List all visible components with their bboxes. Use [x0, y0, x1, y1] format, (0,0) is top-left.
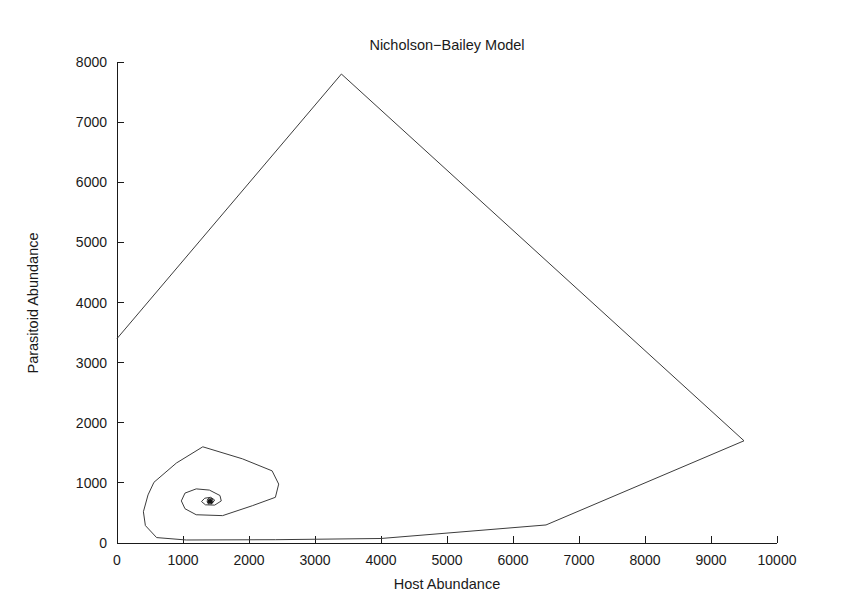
- phase-plane-chart: Nicholson−Bailey Model 01000200030004000…: [0, 0, 841, 614]
- x-tick-label: 5000: [431, 552, 462, 568]
- y-tick-label: 4000: [76, 295, 107, 311]
- y-tick-label: 0: [99, 535, 107, 551]
- x-tick-label: 8000: [629, 552, 660, 568]
- y-tick-label: 2000: [76, 415, 107, 431]
- y-tick-label: 5000: [76, 234, 107, 250]
- x-tick-label: 6000: [497, 552, 528, 568]
- figure-canvas: Nicholson−Bailey Model 01000200030004000…: [0, 0, 841, 614]
- y-tick-label: 1000: [76, 475, 107, 491]
- y-axis-title: Parasitoid Abundance: [25, 232, 41, 373]
- equilibrium-core-dot: [209, 500, 212, 503]
- x-tick-label: 2000: [233, 552, 264, 568]
- x-tick-label: 4000: [365, 552, 396, 568]
- x-axis-title: Host Abundance: [394, 576, 500, 592]
- y-tick-label: 8000: [76, 54, 107, 70]
- y-tick-label: 7000: [76, 114, 107, 130]
- chart-background: [0, 0, 841, 614]
- chart-title: Nicholson−Bailey Model: [369, 37, 524, 53]
- x-tick-label: 0: [113, 552, 121, 568]
- x-tick-label: 1000: [167, 552, 198, 568]
- x-tick-label: 7000: [563, 552, 594, 568]
- y-tick-label: 3000: [76, 355, 107, 371]
- x-tick-label: 3000: [299, 552, 330, 568]
- y-tick-label: 6000: [76, 174, 107, 190]
- x-tick-label: 9000: [695, 552, 726, 568]
- x-tick-label: 10000: [758, 552, 797, 568]
